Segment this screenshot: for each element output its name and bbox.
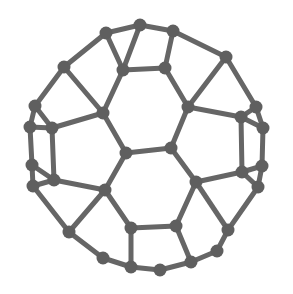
atom-node: [159, 62, 172, 75]
atom-node: [170, 220, 183, 233]
atom-node: [211, 245, 224, 258]
atom-node: [48, 174, 61, 187]
atom-node: [257, 122, 270, 135]
atom-node: [220, 51, 233, 64]
atom-node: [185, 256, 198, 269]
atom-node: [222, 224, 235, 237]
bond: [241, 117, 242, 172]
atom-node: [235, 111, 248, 124]
atom-node: [120, 147, 133, 160]
atom-node: [27, 180, 40, 193]
atom-node: [154, 264, 167, 277]
fullerene-structure-diagram: [0, 0, 293, 294]
atom-node: [97, 107, 110, 120]
atom-node: [165, 142, 178, 155]
atom-node: [117, 64, 130, 77]
bond: [131, 226, 176, 228]
bond: [52, 128, 54, 180]
atom-node: [256, 160, 269, 173]
atom-node: [63, 226, 76, 239]
atom-node: [250, 101, 263, 114]
atom-node: [167, 25, 180, 38]
atom-node: [125, 261, 138, 274]
atom-node: [58, 61, 71, 74]
atom-node: [252, 181, 265, 194]
atom-node: [24, 121, 37, 134]
atom-node: [29, 100, 42, 113]
atom-node: [97, 252, 110, 265]
atom-node: [99, 184, 112, 197]
atom-node: [100, 27, 113, 40]
atom-node: [182, 101, 195, 114]
atom-node: [236, 166, 249, 179]
atom-node: [134, 19, 147, 32]
diagram-background: [0, 0, 293, 294]
atom-node: [125, 222, 138, 235]
atom-node: [26, 159, 39, 172]
atom-node: [190, 176, 203, 189]
atom-node: [46, 122, 59, 135]
